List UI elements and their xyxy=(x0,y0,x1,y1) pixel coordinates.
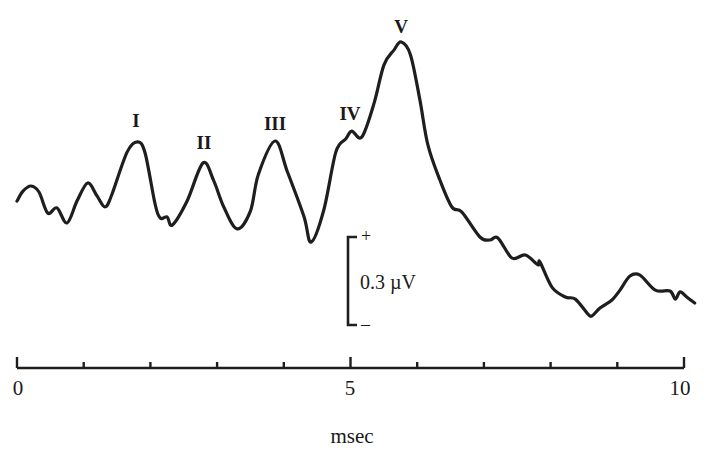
x-tick-label-0: 0 xyxy=(13,376,24,401)
x-axis xyxy=(17,357,684,368)
scale-plus-sign: + xyxy=(361,226,371,247)
waveform-line xyxy=(17,42,695,317)
peak-label-V: V xyxy=(394,16,408,38)
peak-label-IV: IV xyxy=(339,103,360,125)
scale-minus-sign: – xyxy=(361,314,370,335)
scale-bar-value: 0.3 µV xyxy=(360,271,416,294)
scale-bar-bracket xyxy=(348,237,357,325)
x-tick-label-10: 10 xyxy=(670,376,691,401)
x-axis-label: msec xyxy=(330,424,373,449)
x-tick-label-5: 5 xyxy=(345,376,356,401)
peak-label-II: II xyxy=(197,132,212,154)
peak-label-I: I xyxy=(132,110,139,132)
peak-label-III: III xyxy=(264,113,286,135)
scale-bar xyxy=(348,237,357,325)
x-axis-ticks xyxy=(17,357,684,368)
